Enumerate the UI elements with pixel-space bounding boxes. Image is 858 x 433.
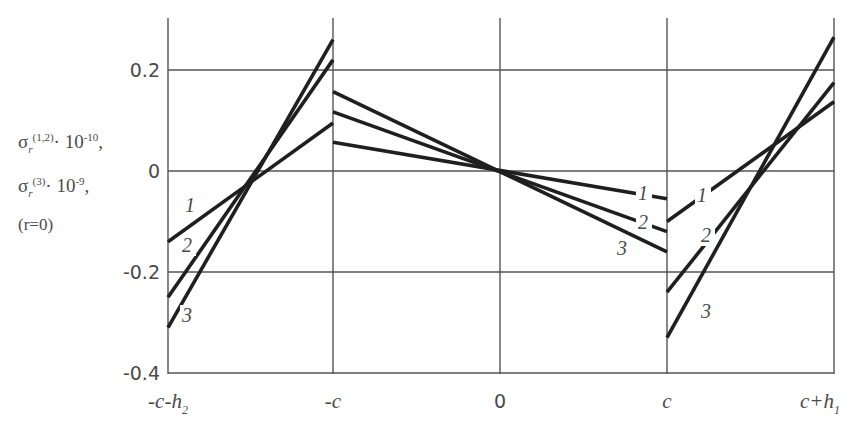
x-tick-label: -c — [325, 389, 342, 413]
chart-canvas: 0.2 0 -0.2 -0.4 -c-h2 -c 0 c c+h1 123123… — [0, 0, 858, 433]
x-tick-label: -c-h2 — [148, 389, 188, 417]
x-tick-label: c+h1 — [800, 389, 840, 417]
y-axis-label-line3: (r=0) — [18, 209, 103, 241]
y-tick-label: -0.4 — [123, 362, 160, 384]
curve-label: 2 — [701, 224, 711, 246]
curve-label: 1 — [697, 184, 707, 206]
y-axis-label-line1: σr(1,2)· 10-10, — [18, 121, 103, 165]
y-tick-label: -0.2 — [123, 261, 160, 283]
x-tick-label: c — [662, 389, 672, 413]
curve-label: 2 — [182, 234, 192, 256]
curve-label: 3 — [181, 304, 192, 326]
series-3-line — [168, 40, 333, 328]
series-3-line — [667, 37, 834, 337]
curve-label: 1 — [185, 194, 195, 216]
curve-label: 3 — [700, 300, 711, 322]
curve-label: 3 — [616, 237, 627, 259]
y-tick-label: 0.2 — [130, 59, 160, 81]
y-axis-label-line2: σr(3)· 10-9, — [18, 165, 103, 209]
series-1-line — [667, 102, 834, 222]
curve-label: 1 — [638, 182, 648, 204]
y-tick-label: 0 — [148, 160, 160, 182]
y-axis-label: σr(1,2)· 10-10, σr(3)· 10-9, (r=0) — [18, 121, 103, 241]
curve-label: 2 — [638, 211, 648, 233]
series-2-line — [168, 60, 333, 297]
x-tick-label: 0 — [494, 390, 506, 412]
curve-labels: 123123123 — [180, 182, 715, 326]
series-lines — [168, 37, 834, 337]
grid-lines — [168, 18, 834, 374]
